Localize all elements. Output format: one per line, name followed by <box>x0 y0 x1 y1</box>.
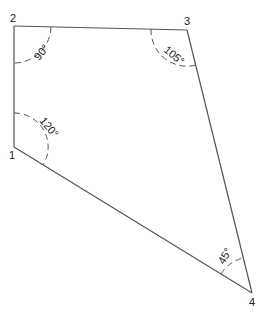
vertex-label-1: 1 <box>9 149 15 161</box>
angle-label-vertex-1: 120° <box>37 115 61 140</box>
vertex-label-2: 2 <box>10 12 16 24</box>
vertex-label-4: 4 <box>249 296 255 308</box>
edge-4-1 <box>14 147 252 293</box>
angle-label-vertex-2: 90° <box>31 42 51 62</box>
vertex-label-3: 3 <box>184 15 190 27</box>
edge-2-3 <box>14 26 187 30</box>
quadrilateral-diagram: 2 3 1 4 90° 105° 120° 45° <box>0 0 268 315</box>
